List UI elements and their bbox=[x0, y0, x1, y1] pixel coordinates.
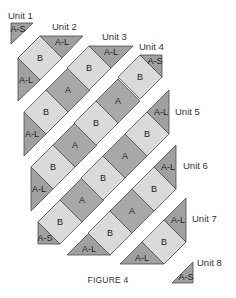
svg-text:B: B bbox=[93, 118, 99, 128]
svg-text:A: A bbox=[122, 151, 128, 161]
svg-text:A-L: A-L bbox=[154, 107, 168, 117]
svg-text:B: B bbox=[161, 237, 167, 247]
svg-text:A-L: A-L bbox=[171, 215, 185, 225]
svg-text:A-L: A-L bbox=[19, 75, 33, 85]
svg-text:A: A bbox=[79, 195, 85, 205]
svg-text:A: A bbox=[115, 96, 121, 106]
unit-3-label: Unit 3 bbox=[102, 31, 127, 42]
svg-text:B: B bbox=[144, 129, 150, 139]
figure-caption: FIGURE 4 bbox=[88, 275, 129, 285]
svg-text:A-L: A-L bbox=[161, 162, 175, 172]
unit-1: A-S Unit 1 bbox=[8, 10, 33, 44]
svg-text:A-S: A-S bbox=[178, 272, 193, 282]
unit-6-label: Unit 6 bbox=[183, 160, 208, 171]
unit-4-label: Unit 4 bbox=[139, 41, 164, 52]
svg-text:A: A bbox=[65, 85, 71, 95]
unit-1-label: Unit 1 bbox=[8, 10, 33, 21]
svg-text:A-L: A-L bbox=[135, 253, 149, 263]
unit-7-label: Unit 7 bbox=[192, 213, 217, 224]
svg-text:B: B bbox=[86, 63, 92, 73]
svg-text:A-L: A-L bbox=[25, 129, 39, 139]
svg-text:B: B bbox=[57, 217, 63, 227]
svg-text:B: B bbox=[100, 173, 106, 183]
svg-text:B: B bbox=[137, 72, 143, 82]
svg-text:B: B bbox=[37, 53, 43, 63]
svg-text:A-L: A-L bbox=[55, 37, 69, 47]
svg-text:A-L: A-L bbox=[32, 184, 46, 194]
svg-text:A: A bbox=[129, 206, 135, 216]
svg-text:B: B bbox=[107, 228, 113, 238]
svg-text:A-L: A-L bbox=[82, 244, 96, 254]
svg-text:A-S: A-S bbox=[10, 24, 25, 34]
svg-text:A-L: A-L bbox=[104, 47, 118, 57]
unit-8-label: Unit 8 bbox=[197, 257, 222, 268]
unit-8: A-S Unit 8 bbox=[172, 257, 222, 283]
quilt-assembly-diagram: A-S Unit 1 A-L B A-L Unit 2 A-L B A B A-… bbox=[0, 0, 236, 298]
svg-text:B: B bbox=[43, 107, 49, 117]
unit-2-label: Unit 2 bbox=[52, 21, 77, 32]
unit-5-label: Unit 5 bbox=[175, 106, 200, 117]
svg-text:A-S: A-S bbox=[147, 56, 162, 66]
svg-text:A: A bbox=[72, 140, 78, 150]
svg-text:B: B bbox=[151, 184, 157, 194]
svg-text:B: B bbox=[50, 162, 56, 172]
